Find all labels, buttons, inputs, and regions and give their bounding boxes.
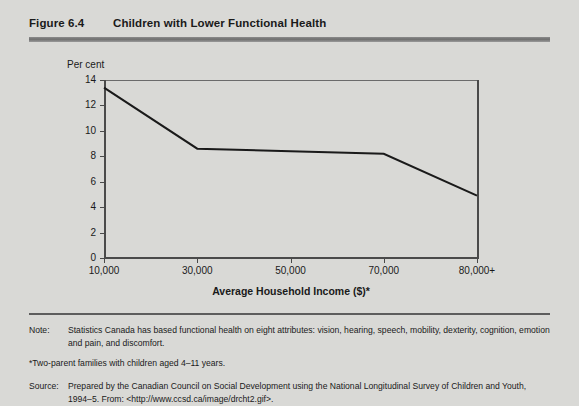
note-text: Statistics Canada has based functional h… — [68, 324, 550, 349]
figure-panel: Figure 6.4 Children with Lower Functiona… — [0, 0, 579, 406]
footnote-text: *Two-parent families with children aged … — [29, 357, 549, 370]
figure-number: Figure 6.4 — [29, 17, 84, 29]
figure-header: Figure 6.4 Children with Lower Functiona… — [0, 0, 579, 48]
source-label: Source: — [29, 380, 59, 393]
note-label: Note: — [29, 324, 50, 337]
header-divider — [29, 37, 550, 42]
series-line-layer — [0, 48, 579, 310]
series-line — [104, 88, 477, 196]
source-text: Prepared by the Canadian Council on Soci… — [68, 380, 550, 405]
figure-notes: Note: Statistics Canada has based functi… — [0, 310, 579, 406]
chart-plot-area: Per cent 0 2 4 6 8 10 12 14 10,000 30,00… — [0, 48, 579, 310]
figure-title: Children with Lower Functional Health — [113, 17, 326, 29]
notes-divider — [29, 313, 550, 315]
